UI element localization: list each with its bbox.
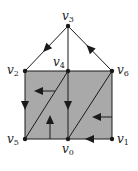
vertex-label-v4: v4: [53, 56, 65, 72]
vertex-label-v6: v6: [117, 64, 129, 80]
vertex-label-v1: v1: [117, 133, 129, 149]
vertex-label-v5: v5: [7, 133, 19, 149]
vertex-label-v2: v2: [7, 64, 19, 80]
vertex-v0: [66, 137, 70, 141]
vertex-v6: [110, 69, 114, 73]
vertex-v5: [23, 137, 27, 141]
vertex-v4: [66, 69, 70, 73]
vertex-v2: [23, 69, 27, 73]
vertex-label-v0: v0: [62, 143, 74, 159]
vertex-label-v3: v3: [62, 10, 74, 26]
vertex-v1: [110, 137, 114, 141]
